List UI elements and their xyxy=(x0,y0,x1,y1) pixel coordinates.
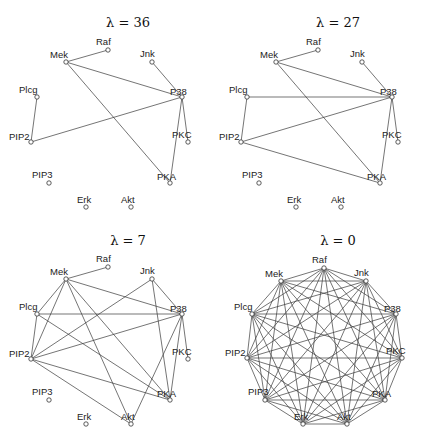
node-mek: Mek xyxy=(265,268,283,283)
edge-pip2-p38 xyxy=(31,314,182,359)
node-label: PIP3 xyxy=(32,169,53,180)
edge-mek-pka xyxy=(276,62,380,183)
node-circle-icon xyxy=(180,312,184,316)
node-pip3: PIP3 xyxy=(32,386,53,402)
node-circle-icon xyxy=(257,181,261,185)
node-circle-icon xyxy=(84,205,88,209)
node-label: P38 xyxy=(170,303,187,314)
edge-pip2-p38 xyxy=(241,97,392,142)
node-circle-icon xyxy=(339,205,343,209)
node-jnk: Jnk xyxy=(350,48,365,64)
node-pka: PKA xyxy=(157,171,177,185)
node-label: P38 xyxy=(170,86,187,97)
node-label: Erk xyxy=(294,411,309,422)
edge-plcg-pip2 xyxy=(241,97,247,142)
node-circle-icon xyxy=(360,60,364,64)
panel-lambda-27: λ = 27 RafMekJnkPlcgP38PIP2PKCPIP3PKAErk… xyxy=(219,15,402,209)
node-pip3: PIP3 xyxy=(248,386,269,402)
node-erk: Erk xyxy=(287,194,302,209)
node-label: PKA xyxy=(157,171,177,182)
network-figure: λ = 36 RafMekJnkPlcgP38PIP2PKCPIP3PKAErk… xyxy=(0,0,421,445)
panel-title: λ = 27 xyxy=(316,15,360,30)
node-pka: PKA xyxy=(157,388,177,402)
panel-title: λ = 7 xyxy=(110,233,146,248)
node-label: PIP2 xyxy=(9,348,30,359)
node-mek: Mek xyxy=(260,49,278,64)
node-circle-icon xyxy=(64,277,68,281)
node-erk: Erk xyxy=(77,411,92,426)
node-circle-icon xyxy=(245,95,249,99)
node-circle-icon xyxy=(322,266,326,270)
node-pkc: PKC xyxy=(172,346,192,361)
edge-raf-mek xyxy=(66,267,108,279)
edge-mek-plcg xyxy=(252,281,281,314)
node-circle-icon xyxy=(35,95,39,99)
node-circle-icon xyxy=(168,398,172,402)
edges xyxy=(241,50,398,183)
node-label: Mek xyxy=(260,49,278,60)
node-circle-icon xyxy=(394,312,398,316)
edge-jnk-pip2 xyxy=(31,279,152,359)
node-label: PIP2 xyxy=(225,347,246,358)
edge-raf-mek xyxy=(276,50,318,62)
node-label: Raf xyxy=(96,36,111,47)
edge-mek-akt xyxy=(66,279,131,424)
edge-pip2-p38 xyxy=(31,97,182,142)
node-circle-icon xyxy=(390,95,394,99)
edges xyxy=(31,50,188,183)
node-label: Raf xyxy=(306,36,321,47)
edge-jnk-pip3 xyxy=(265,281,366,400)
node-circle-icon xyxy=(364,279,368,283)
node-label: PKC xyxy=(382,129,402,140)
node-pip3: PIP3 xyxy=(32,169,53,185)
node-label: P38 xyxy=(380,86,397,97)
node-mek: Mek xyxy=(50,266,68,281)
node-label: Plcg xyxy=(19,84,37,95)
node-plcg: Plcg xyxy=(229,84,249,99)
node-label: Akt xyxy=(121,411,135,422)
node-label: PKC xyxy=(172,346,192,357)
node-circle-icon xyxy=(47,181,51,185)
node-circle-icon xyxy=(150,60,154,64)
edge-mek-p38 xyxy=(66,279,182,314)
edge-raf-mek xyxy=(66,50,108,62)
edge-raf-mek xyxy=(281,268,324,281)
node-label: Jnk xyxy=(140,265,155,276)
node-raf: Raf xyxy=(306,36,321,52)
node-circle-icon xyxy=(279,279,283,283)
node-akt: Akt xyxy=(121,411,135,426)
node-pip2: PIP2 xyxy=(9,348,33,361)
node-label: Plcg xyxy=(19,301,37,312)
node-label: PIP3 xyxy=(248,386,269,397)
node-label: Mek xyxy=(265,268,283,279)
node-label: Mek xyxy=(50,266,68,277)
node-pip2: PIP2 xyxy=(225,347,249,360)
node-label: P38 xyxy=(384,303,401,314)
node-label: Plcg xyxy=(234,301,252,312)
node-pip3: PIP3 xyxy=(242,169,263,185)
node-label: Jnk xyxy=(140,48,155,59)
node-label: PIP2 xyxy=(219,131,240,142)
node-pkc: PKC xyxy=(382,129,402,144)
node-label: Raf xyxy=(96,253,111,264)
node-raf: Raf xyxy=(96,253,111,269)
node-circle-icon xyxy=(239,140,243,144)
node-circle-icon xyxy=(400,356,404,360)
node-circle-icon xyxy=(186,357,190,361)
node-circle-icon xyxy=(396,140,400,144)
node-circle-icon xyxy=(129,205,133,209)
node-label: Mek xyxy=(50,49,68,60)
node-label: Akt xyxy=(337,411,351,422)
node-circle-icon xyxy=(29,357,33,361)
node-p38: P38 xyxy=(170,86,187,99)
edge-mek-p38 xyxy=(276,62,392,97)
node-circle-icon xyxy=(294,205,298,209)
node-label: PKC xyxy=(172,129,192,140)
node-label: PIP3 xyxy=(242,169,263,180)
node-pip2: PIP2 xyxy=(219,131,243,144)
node-circle-icon xyxy=(345,422,349,426)
edges xyxy=(247,268,402,424)
node-label: Akt xyxy=(331,194,345,205)
node-label: Jnk xyxy=(354,267,369,278)
edge-plcg-pip2 xyxy=(247,314,252,358)
